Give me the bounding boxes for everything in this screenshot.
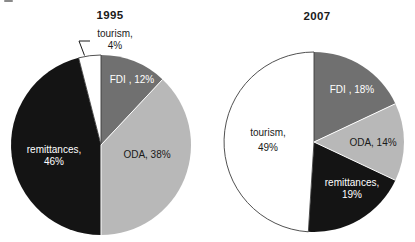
label-2007-remittances-line2: 19% bbox=[325, 189, 379, 201]
pie-charts-canvas bbox=[0, 0, 415, 242]
label-2007-fdi: FDI , 18% bbox=[330, 84, 374, 96]
label-2007-tourism: tourism, 49% bbox=[250, 125, 286, 155]
label-1995-oda: ODA, 38% bbox=[123, 149, 170, 161]
label-2007-oda-line1: ODA, 14% bbox=[349, 137, 396, 149]
label-1995-tourism-line1: tourism, bbox=[97, 28, 133, 40]
label-1995-fdi-line1: FDI , 12% bbox=[110, 74, 154, 86]
label-2007-tourism-line2: 49% bbox=[250, 140, 286, 155]
label-2007-remittances: remittances, 19% bbox=[325, 177, 379, 201]
pie-charts-figure: 1995 2007 tourism, 4% FDI , 12% ODA, 38%… bbox=[0, 0, 415, 242]
label-1995-tourism-line2: 4% bbox=[97, 40, 133, 52]
label-2007-tourism-line1: tourism, bbox=[250, 125, 286, 140]
label-1995-tourism: tourism, 4% bbox=[97, 28, 133, 52]
label-1995-oda-line1: ODA, 38% bbox=[123, 149, 170, 161]
label-2007-oda: ODA, 14% bbox=[349, 137, 396, 149]
label-2007-remittances-line1: remittances, bbox=[325, 177, 379, 189]
label-1995-remittances-line2: 46% bbox=[27, 156, 81, 168]
label-1995-remittances-line1: remittances, bbox=[27, 144, 81, 156]
label-2007-fdi-line1: FDI , 18% bbox=[330, 84, 374, 96]
tourism-leader-line bbox=[79, 41, 90, 56]
label-1995-fdi: FDI , 12% bbox=[110, 74, 154, 86]
label-1995-remittances: remittances, 46% bbox=[27, 144, 81, 168]
